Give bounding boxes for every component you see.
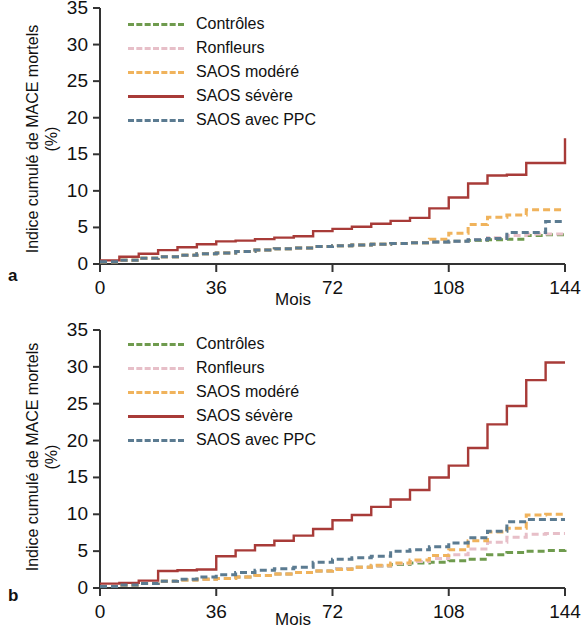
y-tick-label: 25 — [67, 393, 88, 414]
legend-line-swatch-icon — [128, 119, 184, 122]
y-tick-label: 35 — [67, 0, 88, 18]
y-tick-label: 20 — [67, 107, 88, 128]
y-tick-label: 25 — [67, 70, 88, 91]
legend-line-swatch-icon — [128, 415, 184, 418]
y-tick-label: 35 — [67, 319, 88, 340]
legend-item-1: Contrôles — [128, 332, 316, 356]
x-tick-label: 36 — [206, 601, 227, 622]
legend-item-label: SAOS sévère — [196, 87, 293, 105]
legend-item-5: SAOS avec PPC — [128, 428, 316, 452]
legend-item-3: SAOS modéré — [128, 60, 316, 84]
x-tick-label: 108 — [433, 277, 465, 298]
legend-line-swatch-icon — [128, 95, 184, 98]
x-tick-label: 72 — [322, 601, 343, 622]
legend-item-4: SAOS sévère — [128, 84, 316, 108]
legend-item-label: SAOS modéré — [196, 383, 299, 401]
x-tick-label: 0 — [95, 601, 106, 622]
x-tick-label: 36 — [206, 277, 227, 298]
y-tick-label: 10 — [67, 503, 88, 524]
y-tick-label: 0 — [77, 577, 88, 598]
legend-line-swatch-icon — [128, 71, 184, 74]
legend-item-label: Ronfleurs — [196, 359, 264, 377]
legend-item-2: Ronfleurs — [128, 356, 316, 380]
legend-item-label: Contrôles — [196, 335, 264, 353]
legend-item-label: Ronfleurs — [196, 39, 264, 57]
legend-b: ContrôlesRonfleursSAOS modéréSAOS sévère… — [128, 332, 316, 452]
y-tick-label: 15 — [67, 143, 88, 164]
y-tick-label: 30 — [67, 34, 88, 55]
series-line-3 — [100, 210, 565, 262]
legend-item-2: Ronfleurs — [128, 36, 316, 60]
legend-item-label: SAOS sévère — [196, 407, 293, 425]
legend-item-1: Contrôles — [128, 12, 316, 36]
legend-item-label: SAOS avec PPC — [196, 431, 316, 449]
legend-line-swatch-icon — [128, 439, 184, 442]
x-tick-label: 108 — [433, 601, 465, 622]
x-tick-label: 144 — [549, 277, 581, 298]
legend-line-swatch-icon — [128, 367, 184, 370]
y-tick-label: 30 — [67, 356, 88, 377]
y-tick-label: 15 — [67, 466, 88, 487]
y-tick-label: 5 — [77, 216, 88, 237]
legend-line-swatch-icon — [128, 23, 184, 26]
legend-item-3: SAOS modéré — [128, 380, 316, 404]
legend-line-swatch-icon — [128, 343, 184, 346]
chart-panel-b: b Indice cumulé de MACE mortels (%) Mois… — [0, 318, 586, 636]
series-line-5 — [100, 222, 565, 262]
legend-item-5: SAOS avec PPC — [128, 108, 316, 132]
legend-item-4: SAOS sévère — [128, 404, 316, 428]
legend-a: ContrôlesRonfleursSAOS modéréSAOS sévère… — [128, 12, 316, 132]
y-tick-label: 20 — [67, 430, 88, 451]
legend-line-swatch-icon — [128, 47, 184, 50]
legend-line-swatch-icon — [128, 391, 184, 394]
legend-item-label: SAOS avec PPC — [196, 111, 316, 129]
x-tick-label: 0 — [95, 277, 106, 298]
x-tick-label: 144 — [549, 601, 581, 622]
chart-panel-a: a Indice cumulé de MACE mortels (%) Mois… — [0, 0, 586, 318]
y-tick-label: 0 — [77, 253, 88, 274]
legend-item-label: Contrôles — [196, 15, 264, 33]
series-line-4 — [100, 138, 565, 260]
series-line-1 — [100, 550, 565, 587]
x-tick-label: 72 — [322, 277, 343, 298]
legend-item-label: SAOS modéré — [196, 63, 299, 81]
y-tick-label: 5 — [77, 540, 88, 561]
y-tick-label: 10 — [67, 180, 88, 201]
figure-cumulative-mace-mortality: a Indice cumulé de MACE mortels (%) Mois… — [0, 0, 586, 636]
